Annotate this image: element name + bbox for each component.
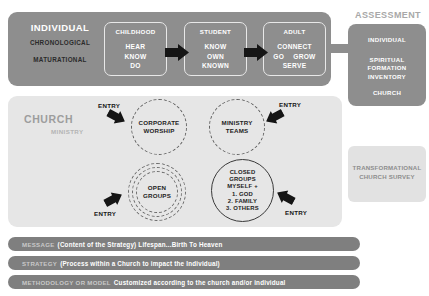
church-subtitle: MINISTRY [51,128,84,135]
individual-subtitle-chronological: CHRONOLOGICAL [18,39,102,46]
stage-line: CONNECT [264,42,325,52]
survey-sub-line: TRANSFORMATIONAL [348,164,426,173]
bar-value-strategy: (Process within a Church to impact the I… [60,260,220,267]
stage-line-pair: GO GROW [264,52,325,62]
circle-sub-line: WORSHIP [139,127,180,135]
assessment-line-church: CHURCH [348,89,426,97]
stage-lines-adult: CONNECT GO GROW SERVE [264,42,325,71]
entry-label-open-groups: ENTRY [94,210,116,217]
bar-key-strategy: STRATEGY [22,260,57,267]
bar-key-methodology: METHODOLOGY OR MODEL [22,279,111,286]
individual-title: INDIVIDUAL [20,22,100,33]
individual-band: INDIVIDUAL CHRONOLOGICAL MATURATIONAL CH… [8,12,331,86]
circle-label-open-groups: OPEN GROUPS [143,184,171,199]
circle-sub-line: TEAMS [222,127,253,135]
circle-sub-line: MYSELF + [226,183,259,190]
bar-strategy[interactable]: STRATEGY (Process within a Church to imp… [8,256,360,270]
circle-label-closed-groups: CLOSED GROUPS MYSELF + 1. GOD 2. FAMILY … [226,169,259,212]
circle-corporate-worship[interactable]: CORPORATE WORSHIP [131,99,187,155]
circle-sub-line: 1. GOD [226,191,259,198]
circle-ministry-teams[interactable]: MINISTRY TEAMS [209,99,265,155]
stage-box-childhood[interactable]: CHILDHOOD HEAR KNOW DO [104,22,167,76]
stage-line: KNOWN [185,61,246,71]
stage-line: GO [273,52,284,62]
arrow-right-icon [244,44,268,61]
circle-sub-line: 3. OTHERS [226,205,259,212]
assessment-sub-line: SPIRITUAL [348,56,426,64]
entry-label-closed-groups: ENTRY [285,209,307,216]
stage-line: DO [105,61,166,71]
transformational-church-survey-box[interactable]: TRANSFORMATIONAL CHURCH SURVEY [348,146,426,202]
diagram-canvas: INDIVIDUAL CHRONOLOGICAL MATURATIONAL CH… [0,0,429,296]
stage-title-childhood: CHILDHOOD [105,28,166,35]
stage-box-adult[interactable]: ADULT CONNECT GO GROW SERVE [263,22,326,76]
circle-open-groups[interactable]: OPEN GROUPS [128,163,186,221]
entry-label-ministry-teams: ENTRY [279,101,301,108]
circle-sub-line: CORPORATE [139,119,180,127]
assessment-sub-line: INVENTORY [348,73,426,81]
circle-sub-line: MINISTRY [222,119,253,127]
assessment-line-spiritual-formation-inventory: SPIRITUAL FORMATION INVENTORY [348,56,426,81]
stage-line: HEAR [105,42,166,52]
transformational-church-survey-label: TRANSFORMATIONAL CHURCH SURVEY [348,164,426,181]
assessment-title: ASSESSMENT [347,10,429,20]
circle-sub-line: GROUPS [226,176,259,183]
stage-lines-student: KNOW OWN KNOWN [185,42,246,71]
circle-label-ministry-teams: MINISTRY TEAMS [222,119,253,134]
bar-value-message: (Content of the Strategy) Lifespan...Bir… [58,241,223,248]
bar-key-message: MESSAGE [22,241,55,248]
assessment-box[interactable]: INDIVIDUAL SPIRITUAL FORMATION INVENTORY… [348,24,426,106]
stage-title-student: STUDENT [185,28,246,35]
assessment-line-individual: INDIVIDUAL [348,36,426,44]
stage-line: KNOW [185,42,246,52]
stage-title-adult: ADULT [264,28,325,35]
stage-box-student[interactable]: STUDENT KNOW OWN KNOWN [184,22,247,76]
individual-subtitle-maturational: MATURATIONAL [18,56,102,63]
circle-sub-line: OPEN [143,184,171,192]
circle-closed-groups[interactable]: CLOSED GROUPS MYSELF + 1. GOD 2. FAMILY … [211,159,274,222]
stage-line: KNOW [105,52,166,62]
stage-line: GROW [293,52,315,62]
circle-label-corporate-worship: CORPORATE WORSHIP [139,119,180,134]
bar-methodology[interactable]: METHODOLOGY OR MODEL Customized accordin… [8,275,360,289]
arrow-right-icon [165,44,189,61]
circle-sub-line: CLOSED [226,169,259,176]
bar-value-methodology: Customized according to the church and/o… [114,279,286,286]
bar-message[interactable]: MESSAGE (Content of the Strategy) Lifesp… [8,237,360,251]
survey-sub-line: CHURCH SURVEY [348,173,426,182]
stage-line: SERVE [264,61,325,71]
circle-sub-line: 2. FAMILY [226,198,259,205]
stage-line: OWN [185,52,246,62]
stage-lines-childhood: HEAR KNOW DO [105,42,166,71]
circle-sub-line: GROUPS [143,192,171,200]
assessment-sub-line: FORMATION [348,64,426,72]
church-title: CHURCH [24,113,73,125]
